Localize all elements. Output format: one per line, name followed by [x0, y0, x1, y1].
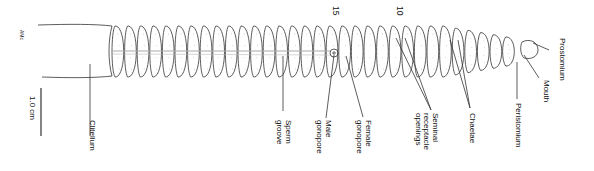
label-female-gonopore: Female gonopore: [355, 120, 372, 154]
label-peristomium: Peristomium: [514, 103, 523, 147]
label-sperm-groove: Sperm groove: [275, 120, 292, 144]
label-seminal-receptacle-openings: Seminal receptacle openings: [414, 113, 440, 150]
scale-bar-label: 1.0 cm: [28, 96, 37, 120]
earthworm-diagram: 15 10 AMc 1.0 cm Clitellum Sperm groove …: [0, 0, 594, 171]
segment-number-15: 15: [331, 6, 341, 15]
label-mouth: Mouth: [542, 80, 551, 102]
segment-number-10: 10: [395, 6, 405, 15]
label-chaetae: Chaetae: [468, 113, 477, 143]
label-clitellum: Clitellum: [88, 120, 97, 151]
prostomium-shape: [521, 40, 538, 58]
label-prostomium: Prostomium: [558, 38, 567, 81]
clitellum-outline: [38, 24, 112, 77]
label-male-gonopore: Male gonopore: [315, 120, 332, 154]
artist-signature: AMc: [18, 30, 27, 40]
